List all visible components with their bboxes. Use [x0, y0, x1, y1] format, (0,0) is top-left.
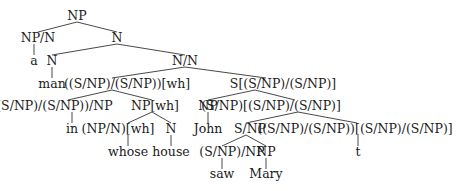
- tree-node: (S/NP)[(S/NP)/(S/NP)]: [201, 99, 341, 113]
- tree-node: (S/NP)/NP: [199, 145, 264, 159]
- tree-node: ((S/NP)/(S/NP))[(S/NP)/(S/NP)]: [257, 122, 452, 136]
- tree-node: whose: [108, 145, 148, 159]
- tree-node: NP: [256, 145, 275, 159]
- tree-node: t: [355, 145, 360, 159]
- tree-node: S[(S/NP)/(S/NP)]: [230, 77, 336, 91]
- tree-node: N/N: [172, 54, 198, 68]
- tree-node: NP: [67, 9, 86, 23]
- tree-node: N: [112, 31, 123, 45]
- tree-node: man: [38, 77, 65, 91]
- tree-node: John: [194, 122, 223, 136]
- tree-node: ((S/NP)/(S/NP))/NP: [0, 99, 113, 113]
- tree-node: saw: [210, 167, 235, 181]
- tree-edge: [52, 44, 117, 55]
- tree-node: in: [66, 122, 78, 136]
- tree-node: NP[wh]: [131, 99, 179, 113]
- tree-node: house: [152, 145, 189, 159]
- tree-node: ((S/NP)/(S/NP))[wh]: [64, 77, 190, 91]
- syntax-tree: NPNP/NNaNN/Nman((S/NP)/(S/NP))[wh]S[(S/N…: [0, 0, 459, 191]
- tree-node: a: [30, 54, 37, 68]
- tree-node: NP/N: [21, 31, 56, 45]
- tree-edges: [0, 0, 459, 191]
- tree-node: Mary: [249, 167, 282, 181]
- tree-node: (NP/N)[wh]: [82, 122, 155, 136]
- tree-node: N: [47, 54, 58, 68]
- tree-node: N: [166, 122, 177, 136]
